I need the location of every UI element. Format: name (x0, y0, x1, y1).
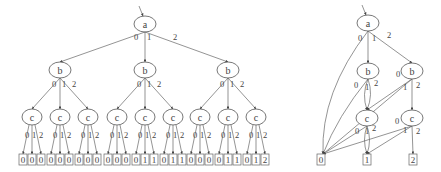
dd-node-a: a (357, 15, 379, 31)
edge-label-node-c-1-1-2: 2 (152, 130, 156, 140)
dd-terminal-0-label: 0 (319, 155, 324, 165)
leaf-26: 2 (261, 154, 269, 165)
leaf-13: 1 (141, 154, 149, 165)
full-decision-tree: a012b012c012000c012000c012000b012c012000… (19, 6, 269, 165)
node-b-2: b (217, 62, 239, 78)
node-a-label: a (143, 19, 148, 30)
leaf-12: 0 (132, 154, 140, 165)
dd-edge-c2-t2-2 (412, 126, 413, 154)
edge-label-b2-2: 2 (240, 79, 244, 89)
leaf-22-label: 1 (226, 155, 231, 165)
leaf-14: 1 (150, 154, 158, 165)
leaf-3-label: 0 (49, 155, 54, 165)
leaf-1: 0 (28, 154, 36, 165)
edge-label-node-c-2-2-1: 1 (256, 130, 260, 140)
edge-label-b1-1: 1 (147, 79, 151, 89)
dd-edge-label-a-2: 2 (387, 30, 391, 40)
node-c-1-1: c (135, 109, 155, 125)
edge-label-b2-0: 0 (220, 79, 224, 89)
dd-root-entry-arrow (362, 5, 366, 15)
node-c-1-2-label: c (171, 112, 176, 123)
leaf-26-label: 2 (263, 155, 268, 165)
node-c-0-0-label: c (30, 112, 35, 123)
leaf-21: 0 (215, 154, 223, 165)
dd-node-b2-label: b (410, 66, 415, 77)
leaf-1-label: 0 (30, 155, 35, 165)
leaf-15: 0 (160, 154, 168, 165)
dd-terminal-2-label: 2 (411, 155, 416, 165)
node-b-2-label: b (226, 65, 231, 76)
edge-label-node-c-0-2-1: 1 (88, 130, 92, 140)
edge-a-b0 (60, 32, 145, 62)
dd-terminal-1: 1 (363, 154, 371, 165)
node-c-0-2-label: c (86, 112, 91, 123)
leaf-20-label: 0 (207, 155, 212, 165)
edge-label-node-c-0-0-1: 1 (32, 130, 36, 140)
edge-label-node-c-0-0-0: 0 (25, 130, 29, 140)
edge-label-b0-0: 0 (52, 79, 56, 89)
edge-label-node-c-2-1-2: 2 (235, 130, 239, 140)
leaf-2: 0 (37, 154, 45, 165)
diagram-canvas: a012b012c012000c012000c012000b012c012000… (0, 0, 441, 172)
edge-label-b0-2: 2 (72, 79, 76, 89)
dd-edge-label-c2-0: 0 (395, 116, 399, 126)
dd-edge-label-b1-0: 0 (354, 80, 358, 90)
edge-label-b1-0: 0 (137, 79, 141, 89)
edge-label-node-c-0-1-1: 1 (60, 130, 64, 140)
leaf-7: 0 (84, 154, 92, 165)
edge-label-b1-2: 2 (157, 79, 161, 89)
leaf-24-label: 0 (245, 155, 250, 165)
dd-edge-label-c1-0: 0 (355, 126, 359, 136)
edge-label-a-0: 0 (134, 32, 138, 42)
edge-label-node-c-1-0-2: 2 (124, 130, 128, 140)
node-c-0-1-label: c (58, 112, 63, 123)
edge-label-a-1: 1 (147, 32, 151, 42)
dd-edge-label-b1-2: 2 (374, 78, 378, 88)
leaf-5-label: 0 (67, 155, 72, 165)
edge-label-node-c-1-2-2: 2 (180, 130, 184, 140)
edge-label-node-c-2-0-0: 0 (193, 130, 197, 140)
leaf-14-label: 1 (152, 155, 157, 165)
edge-label-node-c-1-1-1: 1 (145, 130, 149, 140)
node-c-2-2-label: c (254, 112, 259, 123)
dd-terminal-2: 2 (409, 154, 417, 165)
leaf-13-label: 1 (143, 155, 148, 165)
dd-node-b2: b (401, 63, 423, 79)
edge-label-node-c-2-0-2: 2 (207, 130, 211, 140)
node-c-1-0: c (107, 109, 127, 125)
edge-label-node-c-0-2-0: 0 (81, 130, 85, 140)
node-c-1-0-label: c (115, 112, 120, 123)
edge-label-node-c-1-0-0: 0 (110, 130, 114, 140)
node-c-0-2: c (78, 109, 98, 125)
root-entry-arrow (139, 6, 143, 16)
leaf-0: 0 (19, 154, 27, 165)
leaf-2-label: 0 (39, 155, 44, 165)
leaf-19-label: 0 (198, 155, 203, 165)
dd-edge-label-b2-2: 2 (416, 80, 420, 90)
leaf-9-label: 0 (106, 155, 111, 165)
dd-terminal-1-label: 1 (365, 155, 370, 165)
dd-edge-a-t0-0 (323, 31, 368, 154)
edge-label-node-c-1-2-1: 1 (173, 130, 177, 140)
dd-edge-label-b1-1: 1 (365, 82, 369, 92)
leaf-8: 0 (93, 154, 101, 165)
leaf-0-label: 0 (21, 155, 26, 165)
edge-label-node-c-2-0-1: 1 (200, 130, 204, 140)
dd-node-c2-label: c (410, 113, 415, 124)
node-b-1-label: b (143, 65, 148, 76)
leaf-23: 1 (233, 154, 241, 165)
leaf-6: 0 (75, 154, 83, 165)
leaf-10: 0 (113, 154, 121, 165)
node-c-2-1: c (218, 109, 238, 125)
leaf-18: 0 (187, 154, 195, 165)
edge-label-b0-1: 1 (62, 79, 66, 89)
edge-label-node-c-2-1-0: 0 (221, 130, 225, 140)
leaf-17: 1 (178, 154, 186, 165)
edge-label-node-c-1-0-1: 1 (117, 130, 121, 140)
leaf-20: 0 (205, 154, 213, 165)
leaf-23-label: 1 (235, 155, 240, 165)
dd-node-b1-label: b (366, 66, 371, 77)
leaf-3: 0 (47, 154, 55, 165)
edge-a-b2 (145, 32, 228, 62)
leaf-25-label: 1 (254, 155, 259, 165)
